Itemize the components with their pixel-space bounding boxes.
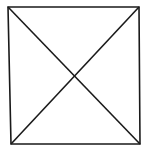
diagram-canvas [0, 0, 146, 152]
square-diagonals-diagram [0, 0, 146, 152]
